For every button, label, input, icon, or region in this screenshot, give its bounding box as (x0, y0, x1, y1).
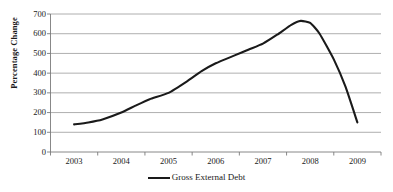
x-axis-tick-label: 2009 (349, 156, 366, 166)
x-axis-tick-label: 2004 (113, 156, 130, 166)
chart-legend: Gross External Debt (0, 172, 393, 183)
x-axis-tick-label: 2007 (254, 156, 271, 166)
line-chart: Percentage Change 0100200300400500600700… (0, 0, 393, 192)
series-lines (74, 21, 357, 125)
axis-ticks (47, 14, 381, 156)
legend-label-gross-external-debt: Gross External Debt (172, 172, 245, 183)
x-axis-tick-label: 2003 (66, 156, 83, 166)
series-line-gross-external-debt (74, 21, 357, 125)
x-axis-tick-label: 2006 (207, 156, 224, 166)
gridlines (51, 14, 382, 132)
x-axis-tick-labels: 2003200420052006200720082009 (0, 156, 393, 170)
x-axis-tick-label: 2008 (302, 156, 319, 166)
axis-spines (51, 14, 382, 152)
legend-line-swatch-icon (148, 177, 170, 179)
x-axis-tick-label: 2005 (160, 156, 177, 166)
